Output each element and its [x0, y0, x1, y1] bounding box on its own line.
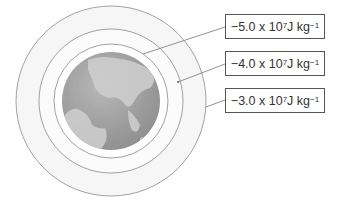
label-unit: J kg	[287, 20, 310, 34]
label-unit-exponent: −1	[310, 95, 319, 104]
earth-globe	[62, 52, 160, 150]
potential-label-outer: −3.0 x 107 J kg−1	[225, 88, 325, 113]
label-unit-exponent: −1	[310, 58, 319, 67]
label-unit: J kg	[287, 94, 310, 108]
label-exponent: 7	[283, 21, 287, 30]
label-value: −5.0 x 10	[231, 20, 283, 34]
potential-label-inner: −5.0 x 107 J kg−1	[225, 14, 325, 39]
label-value: −3.0 x 10	[231, 94, 283, 108]
label-exponent: 7	[283, 58, 287, 67]
leader-line-3	[206, 100, 225, 107]
label-exponent: 7	[283, 95, 287, 104]
potential-label-middle: −4.0 x 107 J kg−1	[225, 51, 325, 76]
label-unit-exponent: −1	[310, 21, 319, 30]
label-unit: J kg	[287, 57, 310, 71]
label-value: −4.0 x 10	[231, 57, 283, 71]
